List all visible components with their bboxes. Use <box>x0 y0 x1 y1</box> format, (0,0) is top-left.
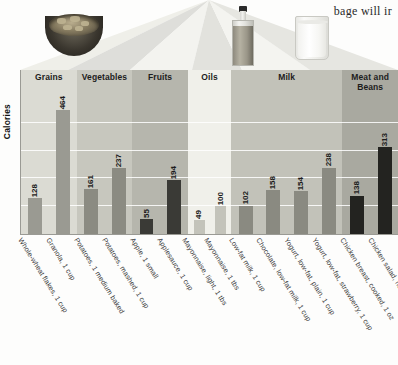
bar[interactable] <box>215 206 226 234</box>
bar-group: 55 <box>140 96 154 234</box>
bar-group: 154 <box>294 96 308 234</box>
bar[interactable] <box>294 191 308 234</box>
bar[interactable] <box>28 198 42 234</box>
bar-group: 194 <box>167 96 181 234</box>
x-tick-label: Potatoes, 1 medium baked <box>72 236 126 315</box>
bar-value-label: 49 <box>195 210 203 219</box>
x-tick-label: Chicken breast, cooked, 1 oz <box>339 236 397 322</box>
category-label: Grains <box>21 72 77 82</box>
bar-value-label: 161 <box>87 175 95 188</box>
bar-value-label: 237 <box>115 154 123 167</box>
food-pyramid-calories-figure: bage will ir Calories GrainsVegetablesFr… <box>0 0 398 365</box>
bar[interactable] <box>140 219 154 234</box>
bar[interactable] <box>378 147 392 234</box>
x-tick-label: Chocolate, low-fat milk, 1 cup <box>255 236 314 323</box>
x-tick-label: Whole-wheat flakes, 1 cup <box>16 236 70 314</box>
bar-value-label: 238 <box>325 153 333 166</box>
bar-value-label: 100 <box>217 192 225 205</box>
category-label: Meat and Beans <box>342 72 398 92</box>
bar-group: 313 <box>378 96 392 234</box>
bars-layer: 1284641612375519449100102158154238138313 <box>21 96 398 234</box>
y-axis-title: Calories <box>2 104 12 139</box>
bar[interactable] <box>112 168 126 234</box>
bar-group: 102 <box>239 96 253 234</box>
bar-group: 158 <box>266 96 280 234</box>
bar[interactable] <box>266 190 280 234</box>
bar-value-label: 128 <box>31 184 39 197</box>
bar[interactable] <box>84 189 98 234</box>
bowl-of-cereal-photo <box>45 8 103 60</box>
bar-value-label: 464 <box>59 96 67 109</box>
bar[interactable] <box>167 180 181 234</box>
bar-group: 128 <box>28 96 42 234</box>
bar-value-label: 158 <box>269 176 277 189</box>
x-axis-tick-labels: Whole-wheat flakes, 1 cupGranola, 1 cupP… <box>20 236 398 365</box>
bar-group: 238 <box>322 96 336 234</box>
bar[interactable] <box>194 220 205 234</box>
bar-group: 100 <box>215 96 226 234</box>
x-tick-label: Granola, 1 cup <box>44 236 77 282</box>
bar-value-label: 55 <box>143 209 151 218</box>
category-label: Fruits <box>132 72 188 82</box>
bar-chart-plot-area: GrainsVegetablesFruitsOilsMilkMeat and B… <box>20 70 398 235</box>
bar-value-label: 138 <box>353 181 361 194</box>
bar-group: 161 <box>84 96 98 234</box>
bar[interactable] <box>322 168 336 234</box>
x-tick-label: Yogurt, low-fat, plain, 1 cup <box>283 236 338 317</box>
glass-of-milk-photo <box>295 16 329 60</box>
bar[interactable] <box>56 110 70 234</box>
bar-group: 49 <box>194 96 205 234</box>
bar-value-label: 154 <box>297 177 305 190</box>
bar[interactable] <box>350 196 364 234</box>
bar-value-label: 313 <box>381 133 389 146</box>
bar-value-label: 102 <box>242 191 250 204</box>
category-label: Milk <box>231 72 342 82</box>
bar-group: 237 <box>112 96 126 234</box>
bar-group: 138 <box>350 96 364 234</box>
x-tick-label: Apple, 1 small <box>128 236 160 280</box>
bar[interactable] <box>239 206 253 234</box>
bar-value-label: 194 <box>170 166 178 179</box>
category-label: Oils <box>188 72 231 82</box>
oil-bottle-photo <box>231 6 255 66</box>
bar-group: 464 <box>56 96 70 234</box>
category-label: Vegetables <box>77 72 133 82</box>
